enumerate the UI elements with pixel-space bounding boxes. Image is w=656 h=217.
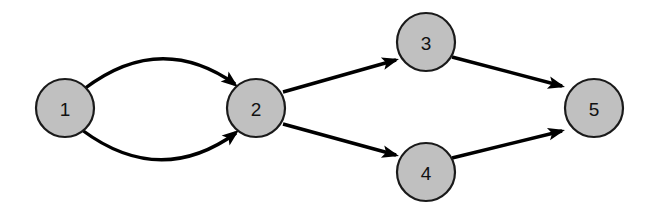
graph-node-5[interactable]: 5 (565, 79, 623, 137)
node-label-3: 3 (421, 33, 432, 54)
node-label-2: 2 (251, 99, 262, 120)
node-label-5: 5 (589, 99, 600, 120)
diagram-background (0, 0, 656, 217)
graph-node-3[interactable]: 3 (397, 13, 455, 71)
graph-svg: 12345 (0, 0, 656, 217)
node-label-1: 1 (60, 99, 71, 120)
node-label-4: 4 (421, 163, 432, 184)
graph-node-2[interactable]: 2 (227, 79, 285, 137)
graph-node-1[interactable]: 1 (36, 79, 94, 137)
graph-node-4[interactable]: 4 (397, 143, 455, 201)
graph-diagram-canvas: 12345 (0, 0, 656, 217)
